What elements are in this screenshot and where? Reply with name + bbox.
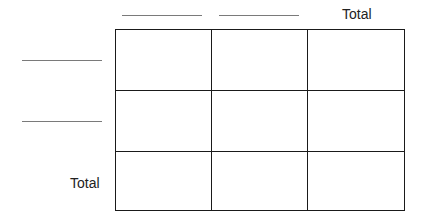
row-header-blank-1[interactable]	[22, 60, 102, 61]
table-cell-r2-total[interactable]	[308, 91, 403, 151]
table-cell-r1-c1[interactable]	[116, 30, 211, 90]
table-cell-r2-c1[interactable]	[116, 91, 211, 151]
column-header-total: Total	[342, 7, 372, 21]
row-header-blank-2[interactable]	[22, 121, 102, 122]
table-cell-r2-c2[interactable]	[212, 91, 307, 151]
table-cell-r1-c2[interactable]	[212, 30, 307, 90]
two-way-table-grid	[115, 29, 405, 211]
table-cell-grand-total[interactable]	[308, 152, 403, 210]
table-cell-r1-total[interactable]	[308, 30, 403, 90]
table-cell-total-c1[interactable]	[116, 152, 211, 210]
column-header-blank-2[interactable]	[219, 15, 299, 16]
column-header-blank-1[interactable]	[122, 15, 202, 16]
row-header-total: Total	[70, 176, 100, 190]
table-cell-total-c2[interactable]	[212, 152, 307, 210]
